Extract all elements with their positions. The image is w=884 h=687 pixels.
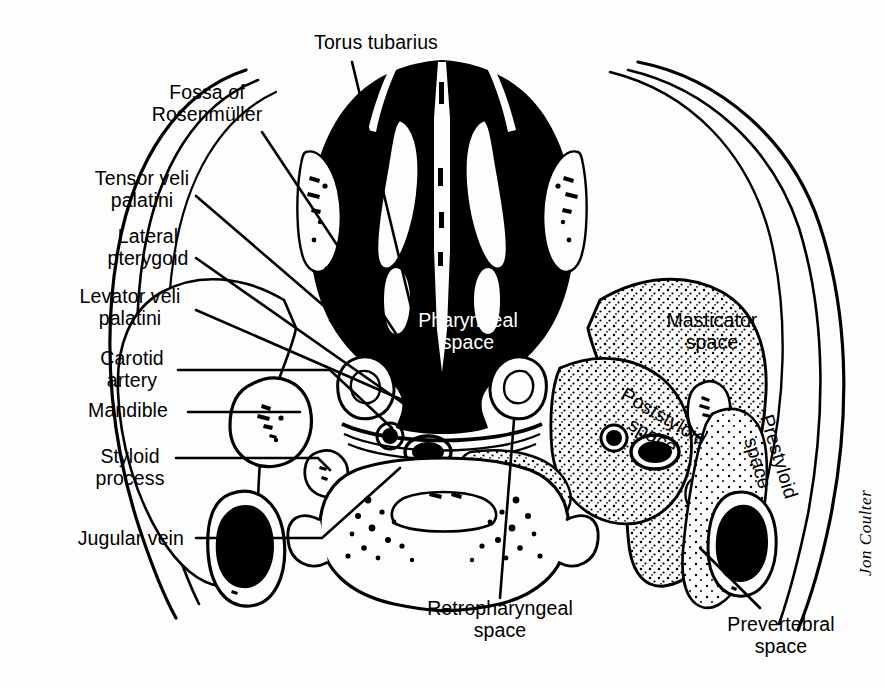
label-tensor-veli-palatini: Tensor veli palatini [68,168,216,212]
label-torus-tubarius: Torus tubarius [296,32,456,54]
label-fossa-of-rosenmuller: Fossa of Rosenmüller [124,82,290,126]
artist-signature: Jon Coulter [856,490,876,576]
label-prevertebral-space: Prevertebral space [700,614,862,658]
label-carotid-artery: Carotid artery [76,348,188,392]
label-levator-veli-palatini: Levator veli palatini [52,286,208,330]
label-masticator-space: Masticator space [640,310,784,354]
label-jugular-vein: Jugular vein [18,528,184,550]
label-mandible: Mandible [36,400,168,422]
label-retropharyngeal-space: Retropharyngeal space [404,598,596,642]
label-pharyngeal-space: Pharyngeal space [392,310,544,354]
label-styloid-process: Styloid process [76,446,184,490]
anatomical-figure: Torus tubarius Fossa of Rosenmüller Tens… [0,0,884,687]
label-lateral-pterygoid: Lateral pterygoid [78,226,218,270]
